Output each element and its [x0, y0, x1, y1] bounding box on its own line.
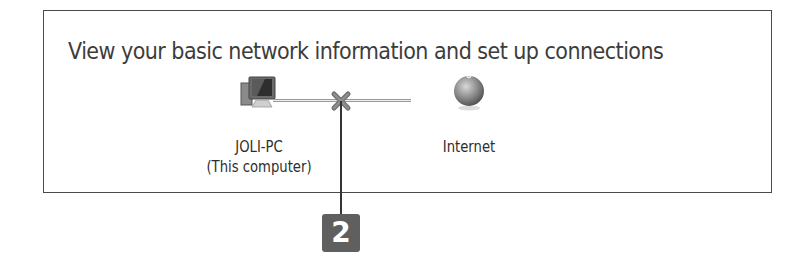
internet-label: Internet: [429, 137, 508, 157]
computer-icon: [239, 75, 279, 111]
globe-icon: [451, 74, 487, 112]
computer-name: JOLI-PC: [193, 137, 325, 157]
callout-badge: 2: [322, 214, 360, 252]
callout-leader-line: [340, 101, 342, 215]
internet-node[interactable]: Internet: [424, 73, 514, 157]
network-map-panel: View your basic network information and …: [43, 10, 772, 193]
computer-subtitle: (This computer): [193, 157, 325, 177]
computer-node[interactable]: JOLI-PC (This computer): [184, 73, 334, 177]
panel-title: View your basic network information and …: [68, 38, 663, 64]
